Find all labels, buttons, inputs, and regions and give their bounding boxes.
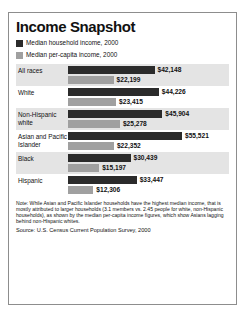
percapita-bar-value: $25,278 bbox=[123, 120, 147, 128]
row-bars: $33,447$12,306 bbox=[68, 176, 229, 194]
percapita-bar bbox=[68, 98, 116, 106]
percapita-bar-line: $22,199 bbox=[68, 76, 229, 84]
household-bar-line: $42,148 bbox=[68, 66, 229, 74]
chart-row: All races$42,148$22,199 bbox=[16, 64, 229, 86]
percapita-bar bbox=[68, 120, 120, 128]
chart-note: Note: While Asian and Pacific Islander h… bbox=[16, 200, 229, 224]
percapita-bar bbox=[68, 186, 93, 194]
row-label: White bbox=[16, 88, 68, 97]
dark-swatch-icon bbox=[16, 40, 23, 47]
household-bar-value: $55,521 bbox=[185, 132, 209, 140]
percapita-bar-value: $22,199 bbox=[117, 76, 141, 84]
chart-row: Non-Hispanic white$45,904$25,278 bbox=[16, 108, 229, 130]
household-bar bbox=[68, 88, 159, 96]
row-label: All races bbox=[16, 66, 68, 75]
percapita-bar-line: $25,278 bbox=[68, 120, 229, 128]
chart-legend: Median household income, 2000 Median per… bbox=[16, 38, 229, 60]
row-label: Hispanic bbox=[16, 176, 68, 185]
household-bar-value: $33,447 bbox=[140, 176, 164, 184]
row-label: Asian and Pacific Islander bbox=[16, 132, 68, 148]
chart-row: Asian and Pacific Islander$55,521$22,352 bbox=[16, 130, 229, 152]
household-bar-value: $42,148 bbox=[158, 66, 182, 74]
percapita-bar-value: $12,306 bbox=[96, 186, 120, 194]
chart-row: White$44,226$23,415 bbox=[16, 86, 229, 108]
row-bars: $44,226$23,415 bbox=[68, 88, 229, 106]
light-swatch-icon bbox=[16, 52, 23, 59]
household-bar-line: $55,521 bbox=[68, 132, 229, 140]
household-bar-value: $45,904 bbox=[165, 110, 189, 118]
page-title: Income Snapshot bbox=[16, 19, 229, 35]
row-bars: $45,904$25,278 bbox=[68, 110, 229, 128]
percapita-bar bbox=[68, 164, 99, 172]
legend-item-household: Median household income, 2000 bbox=[16, 38, 229, 48]
household-bar-line: $45,904 bbox=[68, 110, 229, 118]
household-bar bbox=[68, 154, 131, 162]
percapita-bar-value: $15,197 bbox=[102, 164, 126, 172]
chart-rows: All races$42,148$22,199White$44,226$23,4… bbox=[16, 64, 229, 196]
household-bar bbox=[68, 176, 137, 184]
percapita-bar-line: $15,197 bbox=[68, 164, 229, 172]
household-bar bbox=[68, 66, 155, 74]
legend-item-percapita: Median per-capita income, 2000 bbox=[16, 50, 229, 60]
row-label: Non-Hispanic white bbox=[16, 110, 68, 126]
row-bars: $42,148$22,199 bbox=[68, 66, 229, 84]
household-bar bbox=[68, 132, 182, 140]
chart-row: Black$30,439$15,197 bbox=[16, 152, 229, 174]
household-bar-value: $44,226 bbox=[162, 88, 186, 96]
legend-label-household: Median household income, 2000 bbox=[26, 39, 118, 47]
household-bar-line: $33,447 bbox=[68, 176, 229, 184]
legend-label-percapita: Median per-capita income, 2000 bbox=[26, 51, 117, 59]
percapita-bar-line: $23,415 bbox=[68, 98, 229, 106]
household-bar-line: $30,439 bbox=[68, 154, 229, 162]
chart-card: Income Snapshot Median household income,… bbox=[8, 12, 237, 305]
household-bar-line: $44,226 bbox=[68, 88, 229, 96]
row-bars: $55,521$22,352 bbox=[68, 132, 229, 150]
row-label: Black bbox=[16, 154, 68, 163]
percapita-bar-value: $22,352 bbox=[117, 142, 141, 150]
percapita-bar-line: $12,306 bbox=[68, 186, 229, 194]
percapita-bar-line: $22,352 bbox=[68, 142, 229, 150]
household-bar bbox=[68, 110, 162, 118]
percapita-bar bbox=[68, 142, 114, 150]
percapita-bar bbox=[68, 76, 114, 84]
row-bars: $30,439$15,197 bbox=[68, 154, 229, 172]
chart-source: Source: U.S. Census Current Population S… bbox=[16, 227, 229, 234]
chart-row: Hispanic$33,447$12,306 bbox=[16, 174, 229, 196]
household-bar-value: $30,439 bbox=[134, 154, 158, 162]
percapita-bar-value: $23,415 bbox=[119, 98, 143, 106]
